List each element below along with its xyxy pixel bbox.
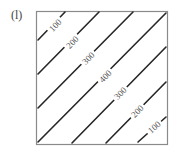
contour-plot: 100200300400300200100 <box>0 0 177 153</box>
contour-label-100: 100 <box>45 15 65 35</box>
contour-label-400: 400 <box>95 66 115 86</box>
contour-label-200: 200 <box>62 32 82 52</box>
